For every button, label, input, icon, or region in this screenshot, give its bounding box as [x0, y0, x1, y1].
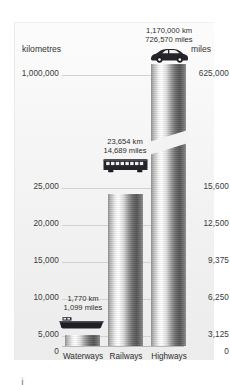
page-artifact-mark [20, 371, 25, 379]
ship-icon [58, 316, 105, 330]
x-axis-baseline [62, 346, 184, 347]
right-axis-tick-15600: 15,600 [185, 182, 228, 191]
value-label-waterways-miles: 1,099 miles [42, 303, 124, 312]
value-label-waterways: 1,770 km 1,099 miles [42, 294, 124, 312]
chart-figure: kilometres miles 1,000,000 625,000 25,00… [0, 0, 228, 385]
bar-highways[interactable] [151, 64, 186, 346]
value-label-highways-km: 1,170,000 km [128, 26, 210, 35]
right-axis-tick-625000: 625,000 [185, 69, 228, 78]
value-label-railways-km: 23,654 km [84, 137, 166, 146]
right-axis-title: miles [191, 44, 211, 54]
right-axis-tick-6250: 6,250 [185, 293, 228, 302]
left-axis-tick-1000000: 1,000,000 [14, 69, 59, 78]
car-icon [148, 47, 190, 63]
left-axis-title: kilometres [22, 44, 61, 54]
right-axis-tick-12500: 12,500 [185, 219, 228, 228]
train-icon [102, 158, 149, 173]
value-label-waterways-km: 1,770 km [42, 294, 124, 303]
bar-waterways[interactable] [65, 335, 100, 346]
left-axis-tick-25000: 25,000 [14, 182, 59, 191]
category-label-highways: Highways [142, 352, 196, 361]
left-axis-tick-5000: 5,000 [14, 330, 59, 339]
left-axis-tick-0: 0 [14, 347, 59, 356]
bar-railways[interactable] [108, 194, 143, 346]
value-label-railways: 23,654 km 14,689 miles [84, 137, 166, 155]
right-axis-tick-9375: 9,375 [185, 256, 228, 265]
left-axis-tick-15000: 15,000 [14, 256, 59, 265]
value-label-highways: 1,170,000 km 726,570 miles [128, 26, 210, 44]
value-label-railways-miles: 14,689 miles [84, 146, 166, 155]
right-axis-tick-3125: 3,125 [185, 330, 228, 339]
plot-area: kilometres miles 1,000,000 625,000 25,00… [14, 22, 214, 360]
value-label-highways-miles: 726,570 miles [128, 35, 210, 44]
left-axis-tick-20000: 20,000 [14, 219, 59, 228]
